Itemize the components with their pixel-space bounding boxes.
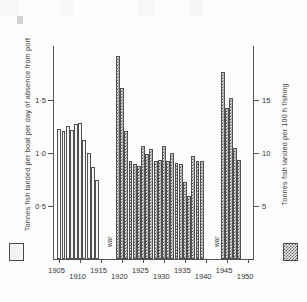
x-tick-1910 <box>80 259 81 263</box>
y-axis-label-right: Tonnes fish landed per 100 h fishing <box>280 50 289 240</box>
x-tick-1940 <box>206 259 207 263</box>
plot-area <box>53 46 254 259</box>
figure-container: Tonnes fish landed per boat per day of a… <box>0 0 307 302</box>
x-tick-1930 <box>164 259 165 263</box>
bar-hatched-1948 <box>237 160 241 259</box>
x-tick-label-1905: 1905 <box>48 266 65 275</box>
x-tick-1915 <box>101 259 102 263</box>
open-bar-swatch <box>9 243 24 261</box>
x-tick-1925 <box>143 259 144 263</box>
x-tick-1905 <box>59 259 60 263</box>
y-tick-label-right-0: 5 <box>262 202 266 211</box>
x-tick-label-1940: 1940 <box>195 272 212 281</box>
x-tick-1935 <box>185 259 186 263</box>
x-tick-label-1930: 1930 <box>153 272 170 281</box>
war-annotation-1: war <box>106 237 113 247</box>
y-tick-label-left-1: 1·0 <box>24 149 46 158</box>
x-tick-label-1925: 1925 <box>132 266 149 275</box>
x-axis-line <box>53 259 254 260</box>
x-tick-1920 <box>122 259 123 263</box>
x-tick-label-1945: 1945 <box>216 266 233 275</box>
scan-artifact-strip <box>0 0 307 16</box>
x-tick-label-1935: 1935 <box>174 266 191 275</box>
y-tick-label-right-2: 15 <box>262 96 270 105</box>
x-tick-1950 <box>248 259 249 263</box>
y-tick-label-left-0: 0·5 <box>24 202 46 211</box>
y-tick-label-left-2: 1·5 <box>24 96 46 105</box>
x-tick-label-1920: 1920 <box>111 272 128 281</box>
x-tick-label-1915: 1915 <box>90 266 107 275</box>
x-tick-label-1950: 1950 <box>237 272 254 281</box>
hatched-bar-swatch <box>283 243 298 261</box>
x-tick-1945 <box>227 259 228 263</box>
scan-artifact-mark <box>17 16 23 24</box>
bar-plain-1914 <box>95 180 99 259</box>
war-annotation-2: war <box>213 237 220 247</box>
x-tick-label-1910: 1910 <box>69 272 86 281</box>
bar-hatched-1939 <box>200 161 204 259</box>
y-tick-label-right-1: 10 <box>262 149 270 158</box>
